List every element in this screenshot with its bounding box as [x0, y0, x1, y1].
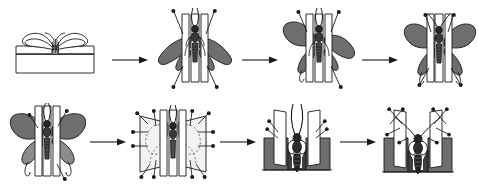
arrow-step-7-to-8 [336, 94, 378, 188]
step-7-front-view-antennae-free: Front view of mounted specimen with ante… [258, 94, 336, 188]
step-4-illustration [400, 0, 478, 94]
step-3-illustration [280, 0, 358, 94]
step-5-wings-fully-spread: Wings fully spread and held by pins agai… [8, 94, 86, 188]
step-2-illustration [150, 0, 238, 94]
step-6-paper-strips-pinned: Paper strips laid over the wings and sec… [128, 94, 216, 188]
step-1-relaxed-specimen-on-board: Relaxed butterfly with wings folded rest… [8, 0, 108, 94]
arrow-step-6-to-7 [216, 94, 258, 188]
procedure-figure: Spreading a butterfly specimen on a spre… [0, 0, 478, 188]
step-2-pinned-wings-drooping: Specimen pinned in groove, wings droopin… [150, 0, 238, 94]
arrow-step-5-to-6 [86, 94, 128, 188]
procedure-row-1: Relaxed butterfly with wings folded rest… [0, 0, 478, 94]
step-8-illustration [378, 94, 458, 188]
step-4-both-wings-positioned: Both forewings and hindwings positioned … [400, 0, 478, 94]
arrow-step-3-to-4 [358, 0, 400, 94]
step-8-antennae-pinned-complete: Antennae set straight and pinned; spread… [378, 94, 458, 188]
step-3-left-wing-raised: Left forewing drawn forward and held wit… [280, 0, 358, 94]
step-7-illustration [258, 94, 336, 188]
arrow-step-2-to-3 [238, 0, 280, 94]
arrow-step-1-to-2 [108, 0, 150, 94]
step-1-illustration [8, 0, 108, 94]
step-5-illustration [8, 94, 86, 188]
step-6-illustration [128, 94, 216, 188]
procedure-row-2: Wings fully spread and held by pins agai… [0, 94, 478, 188]
